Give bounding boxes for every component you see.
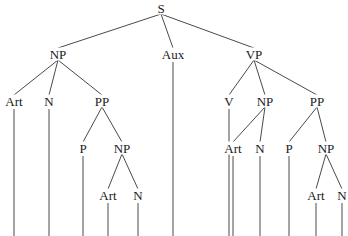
tree-node-vp: VP: [245, 48, 264, 61]
tree-edge-s-aux: [161, 14, 173, 48]
tree-node-art4: Art: [306, 189, 325, 202]
tree-node-np2: NP: [113, 142, 132, 155]
tree-node-n1: N: [43, 95, 54, 108]
tree-node-np1: NP: [49, 48, 68, 61]
tree-edges: [0, 0, 348, 236]
tree-node-p2: P: [284, 142, 293, 155]
tree-edge-s-np1: [58, 14, 161, 48]
tree-edge-np4-art4: [316, 154, 326, 189]
tree-node-v: V: [223, 95, 234, 108]
tree-edge-np2-art2: [108, 154, 122, 189]
tree-node-pp2: PP: [309, 95, 325, 108]
tree-edge-pp1-p1: [83, 107, 102, 142]
tree-node-np3: NP: [256, 95, 275, 108]
tree-edge-s-vp: [161, 14, 254, 48]
tree-edge-pp1-np2: [102, 107, 122, 142]
tree-edge-np2-n2: [122, 154, 138, 189]
tree-edge-np1-art1: [14, 60, 58, 95]
tree-node-art1: Art: [4, 95, 23, 108]
tree-node-np4: NP: [317, 142, 336, 155]
tree-node-n4: N: [336, 189, 347, 202]
tree-edge-np1-n1: [49, 60, 58, 95]
tree-node-p1: P: [78, 142, 87, 155]
tree-edge-np1-pp1: [58, 60, 102, 95]
tree-node-n3: N: [254, 142, 265, 155]
tree-edge-pp2-np4: [317, 107, 326, 142]
tree-node-n2: N: [132, 189, 143, 202]
tree-node-art3: Art: [223, 142, 242, 155]
tree-node-pp1: PP: [94, 95, 110, 108]
tree-edge-pp2-p2: [289, 107, 317, 142]
tree-node-aux: Aux: [161, 48, 185, 61]
tree-edge-vp-v: [229, 60, 254, 95]
tree-node-art2: Art: [98, 189, 117, 202]
tree-node-s: S: [156, 2, 165, 15]
tree-edge-np4-n4: [326, 154, 342, 189]
tree-edge-np3-art3: [233, 107, 265, 142]
